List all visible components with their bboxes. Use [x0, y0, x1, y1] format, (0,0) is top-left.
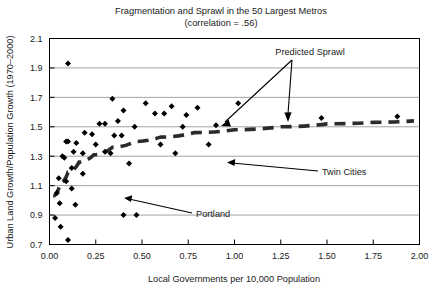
y-tick-label: 0.9 [30, 210, 43, 220]
x-tick-label: 1.50 [318, 251, 336, 261]
y-axis-title-group: Urban Land Growth/Population Growth (197… [5, 36, 15, 249]
x-tick-label: 0.50 [133, 251, 151, 261]
annotation-label-twin-cities: Twin Cities [322, 167, 367, 177]
annotation-label-predicted-sprawl: Predicted Sprawl [275, 47, 344, 57]
scatter-chart: Fragmentation and Sprawl in the 50 Large… [0, 0, 442, 289]
x-tick-label: 1.25 [272, 251, 290, 261]
y-tick-label: 1.5 [30, 122, 43, 132]
x-tick-label: 2.00 [411, 251, 429, 261]
chart-subtitle: (correlation = .56) [184, 18, 257, 28]
y-tick-label: 1.7 [30, 93, 43, 103]
x-tick-label: 0.25 [87, 251, 105, 261]
y-axis-title: Urban Land Growth/Population Growth (197… [5, 36, 15, 249]
chart-title: Fragmentation and Sprawl in the 50 Large… [115, 6, 327, 16]
y-tick-label: 0.7 [30, 240, 43, 250]
annotation-label-portland: Portland [196, 209, 230, 219]
y-tick-label: 1.9 [30, 63, 43, 73]
x-tick-label: 1.00 [226, 251, 244, 261]
y-tick-label: 2.1 [30, 34, 43, 44]
x-axis-title: Local Governments per 10,000 Population [148, 274, 320, 284]
y-tick-label: 1.3 [30, 152, 43, 162]
y-tick-label: 1.1 [30, 181, 43, 191]
plot-area: 0.70.91.11.31.51.71.92.1 0.000.250.500.7… [30, 34, 428, 261]
plot-frame [50, 39, 420, 245]
chart-svg: Fragmentation and Sprawl in the 50 Large… [0, 0, 442, 289]
x-tick-label: 0.00 [41, 251, 59, 261]
x-tick-label: 1.75 [364, 251, 382, 261]
x-tick-label: 0.75 [179, 251, 197, 261]
